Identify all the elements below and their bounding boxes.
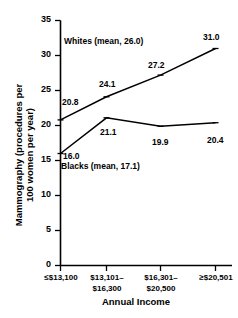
chart-figure: 35 30 25 20 15 10 5 0 ≤$13,100 $13,101– … (0, 0, 238, 318)
x-tick-label-4-line1: ≥$20,501 (186, 274, 238, 282)
x-axis-title: Annual Income (66, 297, 206, 307)
x-tick-label-2-line1: $13,101– (77, 274, 137, 282)
value-label-whites-1: 20.8 (62, 98, 79, 107)
value-label-blacks-4: 20.4 (207, 136, 224, 145)
value-label-blacks-1: 16.0 (63, 152, 80, 161)
y-tick-label-35: 35 (31, 15, 51, 24)
x-tick-label-3-line1: $16,301– (131, 274, 191, 282)
value-label-blacks-2: 21.1 (100, 128, 117, 137)
series-annotation-blacks: Blacks (mean, 17.1) (61, 162, 140, 171)
y-axis-ticks (55, 21, 61, 266)
x-tick-label-3-line2: $20,500 (131, 285, 191, 293)
x-axis-ticks (61, 266, 216, 272)
value-label-whites-3: 27.2 (148, 61, 165, 70)
series-line-whites (61, 49, 216, 120)
series-line-blacks (61, 118, 216, 154)
value-label-whites-2: 24.1 (99, 80, 116, 89)
y-axis-title-line2: 100 women per year) (25, 40, 35, 270)
y-axis-title-line1: Mammography (procedures per (14, 40, 24, 270)
value-label-whites-4: 31.0 (203, 33, 220, 42)
x-tick-label-2-line2: $16,300 (77, 285, 137, 293)
series-annotation-whites: Whites (mean, 26.0) (64, 37, 143, 46)
value-label-blacks-3: 19.9 (152, 138, 169, 147)
